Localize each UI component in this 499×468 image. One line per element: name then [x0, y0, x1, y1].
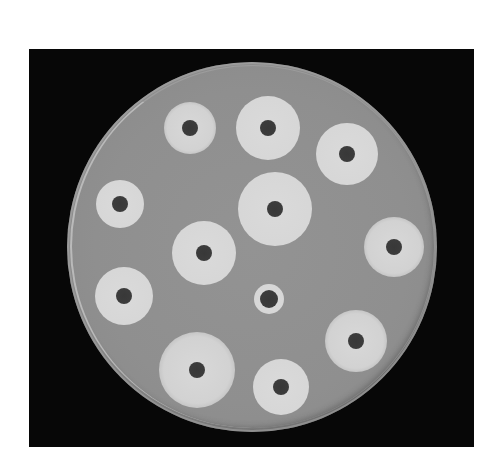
antibiotic-disk	[112, 196, 128, 212]
antibiotic-disk	[260, 120, 276, 136]
antibiotic-disk	[196, 245, 212, 261]
antibiotic-disk	[273, 379, 289, 395]
antibiotic-disk	[339, 146, 355, 162]
antibiotic-disk	[260, 290, 278, 308]
antibiotic-disk	[348, 333, 364, 349]
antibiotic-disk	[267, 201, 283, 217]
antibiotic-disk	[386, 239, 402, 255]
antibiotic-disk	[116, 288, 132, 304]
antibiotic-disk	[189, 362, 205, 378]
antibiotic-disk	[182, 120, 198, 136]
